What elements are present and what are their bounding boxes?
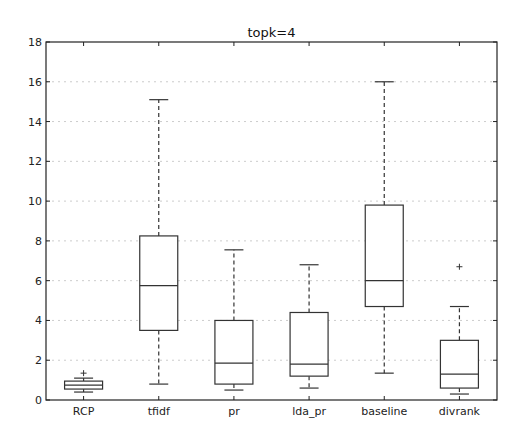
x-tick-label: pr bbox=[228, 405, 240, 418]
y-tick-label: 4 bbox=[35, 314, 42, 327]
y-axis: 024681012141618 bbox=[28, 36, 497, 407]
x-tick-label: divrank bbox=[439, 405, 481, 418]
y-tick-label: 8 bbox=[35, 235, 42, 248]
x-tick-label: baseline bbox=[361, 405, 407, 418]
box-lda_pr bbox=[290, 265, 328, 388]
iqr-box bbox=[140, 236, 178, 330]
iqr-box bbox=[365, 205, 403, 306]
y-tick-label: 2 bbox=[35, 354, 42, 367]
chart-title: topk=4 bbox=[248, 25, 296, 40]
outlier-point bbox=[456, 264, 462, 270]
grid bbox=[46, 82, 497, 360]
box-tfidf bbox=[140, 100, 178, 384]
x-axis: RCPtfidfprlda_prbaselinedivrank bbox=[73, 42, 481, 418]
box-pr bbox=[215, 250, 253, 390]
iqr-box bbox=[440, 340, 478, 388]
iqr-box bbox=[290, 312, 328, 376]
y-tick-label: 14 bbox=[28, 116, 42, 129]
boxplot-chart: topk=4 024681012141618 RCPtfidfprlda_prb… bbox=[0, 0, 529, 443]
box-divrank bbox=[440, 264, 478, 394]
plot-frame bbox=[46, 42, 497, 400]
x-tick-label: lda_pr bbox=[292, 405, 326, 418]
x-tick-label: tfidf bbox=[148, 405, 171, 418]
x-tick-label: RCP bbox=[73, 405, 95, 418]
y-tick-label: 18 bbox=[28, 36, 42, 49]
box-baseline bbox=[365, 82, 403, 373]
y-tick-label: 0 bbox=[35, 394, 42, 407]
outlier-point bbox=[81, 370, 87, 376]
y-tick-label: 10 bbox=[28, 195, 42, 208]
boxes bbox=[65, 82, 479, 394]
box-RCP bbox=[65, 370, 103, 392]
y-tick-label: 16 bbox=[28, 76, 42, 89]
y-tick-label: 6 bbox=[35, 275, 42, 288]
iqr-box bbox=[215, 320, 253, 384]
y-tick-label: 12 bbox=[28, 155, 42, 168]
